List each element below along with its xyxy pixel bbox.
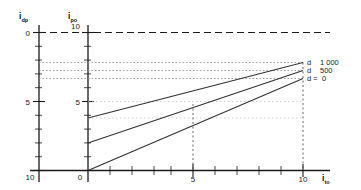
y-left-tick-label-5: 5 [26,98,31,107]
annotation-d-0-value: 0 [322,74,326,83]
y-main-tick-label-5: 5 [76,98,81,107]
line-chart: 0 5 10 idp 10 5 0 ipo [0,0,361,190]
chart-container: 0 5 10 idp 10 5 0 ipo [0,0,361,190]
annotation-d-0-label: d = [307,74,318,83]
y-left-tick-label-0: 0 [26,29,31,38]
x-tick-label-10: 10 [299,175,308,184]
y-left-tick-label-10: 10 [26,173,35,182]
x-tick-label-5: 5 [191,175,196,184]
y-main-tick-label-10: 10 [71,22,80,31]
y-main-tick-label-0: 0 [78,173,83,182]
chart-background [0,0,361,190]
